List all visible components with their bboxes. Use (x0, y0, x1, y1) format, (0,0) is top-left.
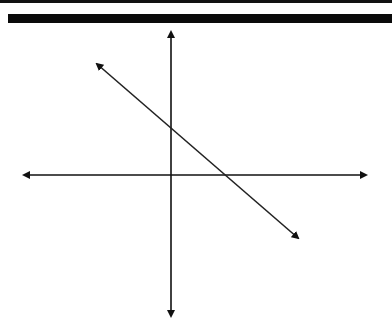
coordinate-plane (0, 0, 392, 336)
sloped-line (97, 64, 298, 238)
